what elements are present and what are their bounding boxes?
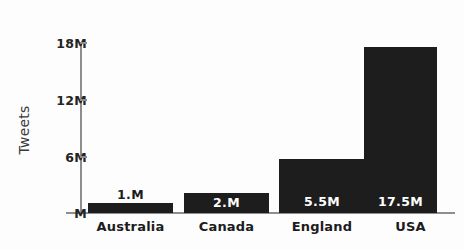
bar-value-canada: 2.M	[184, 195, 269, 210]
y-tick-18m: 18M	[0, 36, 87, 50]
bar-value-england: 5.5M	[279, 194, 365, 209]
bar-value-usa: 17.5M	[364, 194, 437, 209]
y-axis-line	[80, 42, 82, 213]
bar-value-australia: 1.M	[88, 187, 173, 202]
y-tick-12m: 12M	[0, 93, 87, 107]
x-tick-label-canada: Canada	[184, 219, 269, 234]
bar-chart: Tweets 18M 12M 6M M 1.M Australia 2.M Ca…	[0, 0, 464, 250]
y-tick-6m: 6M	[0, 150, 87, 164]
y-tick-mark	[80, 99, 87, 101]
x-tick-label-england: England	[279, 219, 365, 234]
y-tick-0m: M	[0, 206, 87, 220]
y-tick-mark	[80, 156, 87, 158]
x-tick-label-usa: USA	[374, 219, 447, 234]
bar-usa	[364, 47, 437, 213]
y-tick-label: M	[41, 206, 87, 221]
x-tick-label-australia: Australia	[88, 219, 173, 234]
bar-australia	[88, 203, 173, 213]
y-tick-mark	[80, 42, 87, 44]
